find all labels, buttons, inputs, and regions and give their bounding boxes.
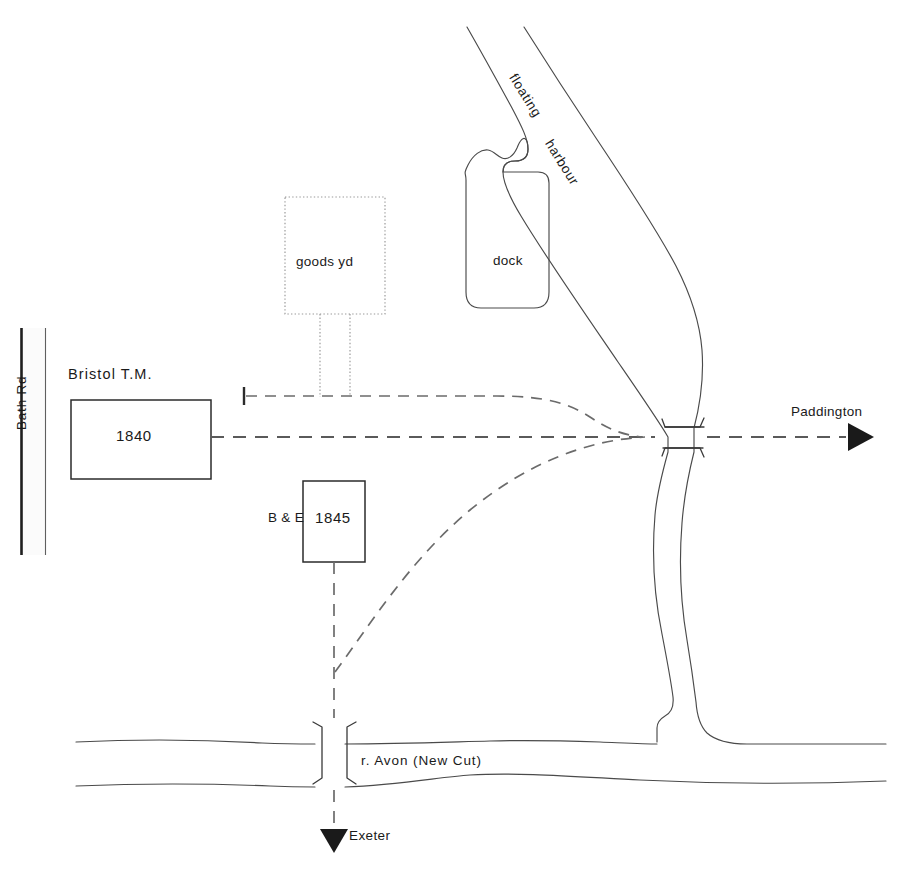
harbour-west-bank xyxy=(467,27,673,742)
paddington-route-label: Paddington xyxy=(791,404,862,419)
bath-road-label: Bath Rd xyxy=(14,376,29,430)
route-arrows xyxy=(320,423,874,853)
railway-lines xyxy=(211,387,846,828)
bridge-newcut-west-deck xyxy=(313,722,322,784)
bristol-tm-year-label: 1840 xyxy=(116,427,152,444)
goods-yard xyxy=(285,197,385,397)
new-cut-south-bank-east xyxy=(345,774,886,787)
dock-outline xyxy=(465,138,549,308)
floating-harbour-water xyxy=(467,27,886,744)
goods-yard-label: goods yd xyxy=(296,254,353,269)
bridge-over-new-cut xyxy=(313,722,356,784)
bath-road-surface xyxy=(20,328,46,555)
exeter-route-label: Exeter xyxy=(349,828,390,843)
paddington-arrow-icon xyxy=(848,423,874,451)
bristol-tm-label: Bristol T.M. xyxy=(68,366,153,382)
harbour-east-bank xyxy=(524,27,886,744)
dock-label: dock xyxy=(493,253,523,268)
new-cut-label: r. Avon (New Cut) xyxy=(361,753,482,768)
dock-basin xyxy=(465,138,549,308)
bath-road xyxy=(20,328,46,555)
railway-map-diagram: Bristol T.M. 1840 B & E 1845 goods yd do… xyxy=(0,0,899,869)
be-station-year-label: 1845 xyxy=(315,509,351,526)
bridge-newcut-east-deck xyxy=(347,722,356,784)
bridge-harbour-north-deck xyxy=(662,418,704,427)
be-station-label: B & E xyxy=(268,510,304,525)
exeter-arrow-icon xyxy=(320,829,348,853)
be-curve-to-junction[interactable] xyxy=(335,437,645,672)
goods-yard-branch[interactable] xyxy=(246,396,643,437)
new-cut-north-bank-east xyxy=(345,741,657,744)
station-boxes xyxy=(71,400,365,562)
new-cut-south-bank-west xyxy=(76,784,315,787)
new-cut-north-bank-west xyxy=(76,740,315,744)
